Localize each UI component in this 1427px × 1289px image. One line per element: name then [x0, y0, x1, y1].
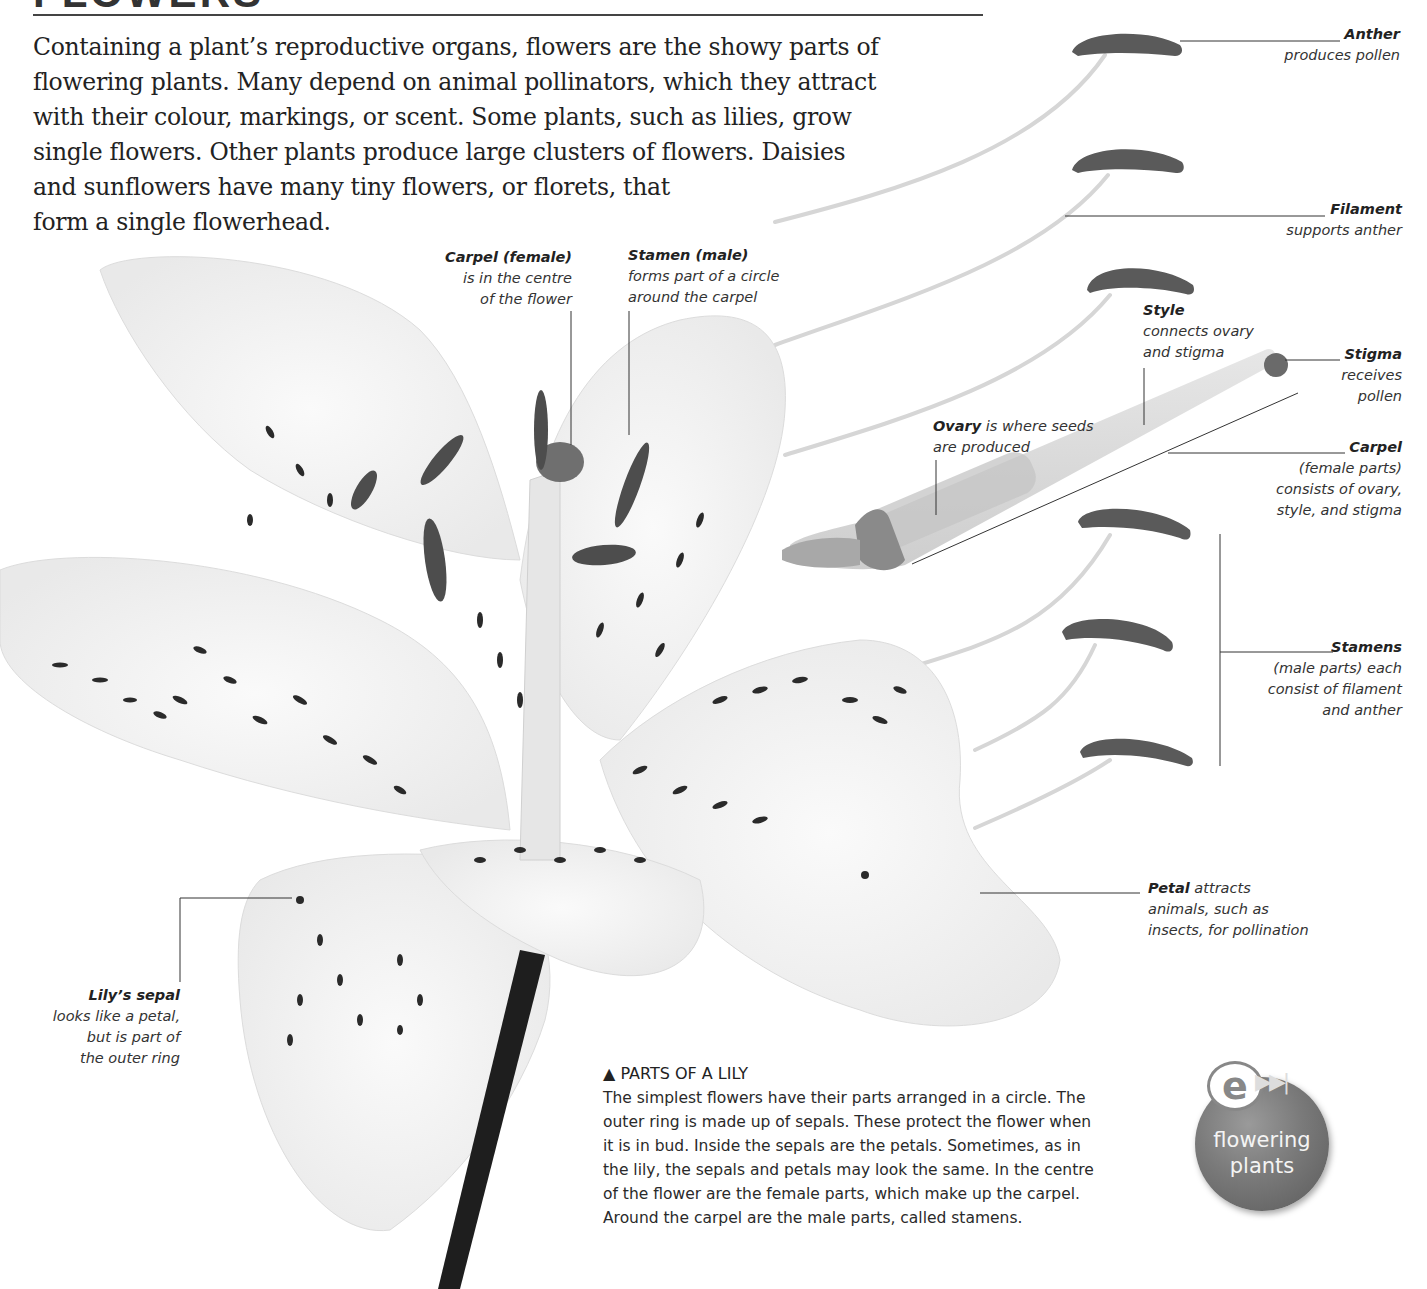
label-stigma: Stigma receives pollen: [1300, 344, 1402, 407]
caption-parts-of-a-lily: ▲ PARTS OF A LILY The simplest flowers h…: [603, 1062, 1133, 1230]
detached-carpel: [782, 349, 1288, 570]
label-filament: Filament supports anther: [1220, 199, 1402, 241]
badge-text: flowering plants: [1195, 1127, 1329, 1179]
label-petal: Petal attracts animals, such as insects,…: [1148, 878, 1348, 941]
label-carpel-female: Carpel (female) is in the centre of the …: [420, 247, 572, 310]
label-stamens: Stamens (male parts) each consist of fil…: [1230, 637, 1402, 721]
label-stamen-male: Stamen (male) forms part of a circle aro…: [628, 245, 828, 308]
label-style: Style connects ovary and stigma: [1143, 300, 1283, 363]
triangle-up-icon: ▲: [603, 1064, 615, 1083]
fast-forward-icon: ▶▶|: [1255, 1069, 1287, 1094]
e-link-badge-flowering-plants[interactable]: e ▶▶| flowering plants: [1195, 1055, 1351, 1211]
label-anther: Anther produces pollen: [1220, 24, 1400, 66]
label-ovary: Ovary is where seeds are produced: [933, 416, 1113, 458]
caption-title: ▲ PARTS OF A LILY: [603, 1062, 1133, 1086]
label-sepal: Lily’s sepal looks like a petal, but is …: [30, 985, 180, 1069]
label-carpel: Carpel (female parts) consists of ovary,…: [1230, 437, 1402, 521]
